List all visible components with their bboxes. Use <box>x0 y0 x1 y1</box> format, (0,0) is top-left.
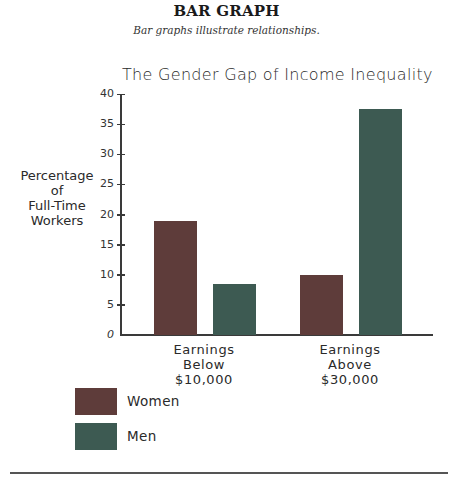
category-label: Earnings Below $10,000 <box>149 342 259 387</box>
category-label-line: Earnings <box>149 342 259 357</box>
bar-women <box>300 275 343 335</box>
y-tick <box>117 274 125 276</box>
legend-swatch-women <box>75 388 117 415</box>
legend-label-men: Men <box>127 428 157 444</box>
bar-men <box>213 284 256 335</box>
category-label: Earnings Above $30,000 <box>295 342 405 387</box>
y-tick-label: 35 <box>84 117 114 130</box>
y-tick-label: 40 <box>84 87 114 100</box>
y-tick <box>117 184 125 186</box>
category-label-line: $30,000 <box>295 372 405 387</box>
chart-title: The Gender Gap of Income Inequality <box>122 65 433 84</box>
y-tick <box>117 124 125 126</box>
category-label-line: $10,000 <box>149 372 259 387</box>
y-tick <box>117 154 125 156</box>
y-tick-label: 15 <box>84 238 114 251</box>
y-tick-label: 25 <box>84 177 114 190</box>
category-label-line: Above <box>295 357 405 372</box>
bar-women <box>154 221 197 335</box>
divider <box>10 472 448 474</box>
y-tick-label: 5 <box>84 298 114 311</box>
category-label-line: Earnings <box>295 342 405 357</box>
y-tick <box>117 94 125 96</box>
y-tick-label: 0 <box>84 328 114 341</box>
y-tick <box>117 214 125 216</box>
bar-men <box>359 109 402 335</box>
y-tick <box>117 244 125 246</box>
legend-swatch-men <box>75 423 117 450</box>
y-tick-label: 10 <box>84 268 114 281</box>
page-subheading: Bar graphs illustrate relationships. <box>0 24 453 36</box>
y-tick-label: 30 <box>84 147 114 160</box>
category-label-line: Below <box>149 357 259 372</box>
page-heading: BAR GRAPH <box>0 2 453 20</box>
y-tick-label: 20 <box>84 208 114 221</box>
legend-label-women: Women <box>127 393 180 409</box>
y-tick <box>117 304 125 306</box>
